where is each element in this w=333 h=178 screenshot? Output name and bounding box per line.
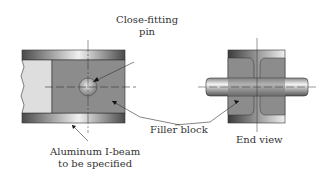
label-beam: Aluminum I-beam to be specified	[50, 146, 140, 170]
label-pin: Close-fitting pin	[116, 14, 178, 38]
label-filler-block: Filler block	[150, 124, 208, 136]
label-pin-line1: Close-fitting	[116, 14, 178, 26]
label-beam-line2: to be specified	[50, 158, 140, 170]
label-end-view: End view	[236, 134, 283, 146]
label-beam-line1: Aluminum I-beam	[50, 146, 140, 158]
label-pin-line2: pin	[116, 26, 178, 38]
side-view	[21, 40, 136, 133]
